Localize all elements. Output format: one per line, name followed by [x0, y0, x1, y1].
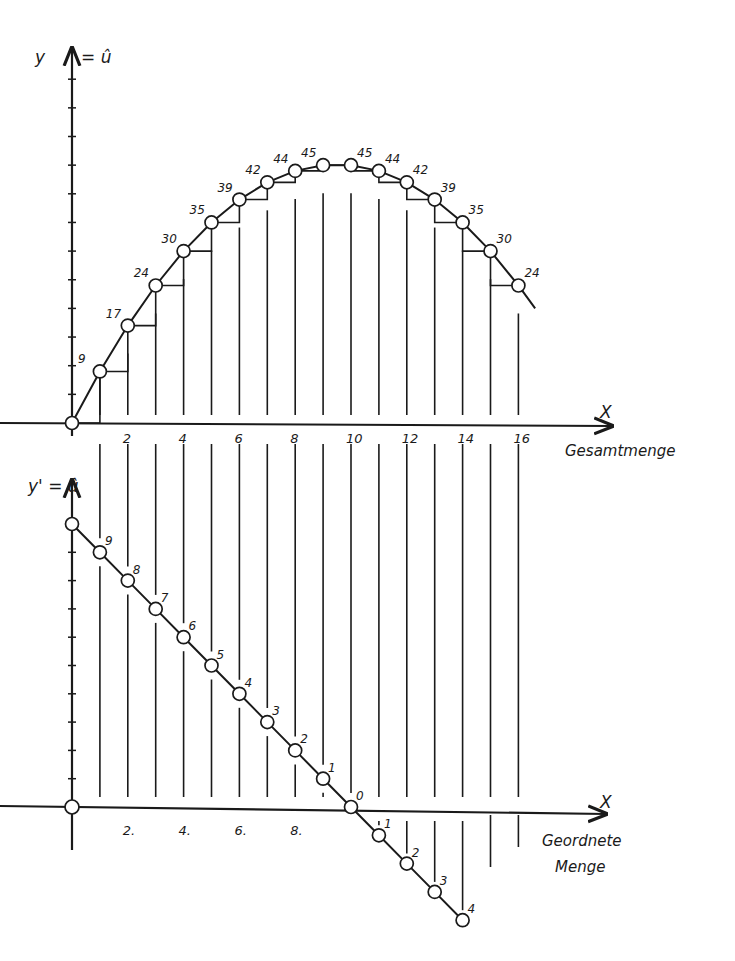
x-tick-label: 2.: [123, 823, 135, 838]
point-value-label: 44: [273, 152, 288, 166]
data-point: [484, 245, 497, 258]
point-value-label: 39: [441, 181, 456, 195]
point-value-label: 44: [385, 152, 400, 166]
point-value-label: 0: [356, 789, 364, 803]
x-tick-label: 6.: [234, 823, 246, 838]
point-value-label: 30: [162, 232, 178, 246]
point-value-label: 42: [413, 163, 428, 177]
marginal-utility-chart: 98765432101234 2.4.6.8. y' = û X Geordne…: [0, 444, 622, 927]
upper-x-axis-label: X: [599, 402, 612, 422]
x-tick-label: 16: [513, 431, 530, 446]
lower-x-axis-label: X: [599, 792, 612, 812]
data-point: [149, 279, 162, 292]
point-value-label: 24: [524, 266, 539, 280]
lower-y-axis-label: y' = û: [27, 476, 79, 496]
upper-x-tick-labels: 246810121416: [123, 431, 530, 446]
data-point: [261, 176, 274, 189]
point-value-label: 4: [244, 676, 252, 690]
x-tick-label: 8: [290, 431, 298, 446]
point-value-label: 7: [161, 591, 169, 605]
point-value-label: 4: [468, 902, 476, 916]
point-value-label: 9: [78, 352, 86, 366]
upper-x-caption: Gesamtmenge: [565, 442, 675, 460]
data-point: [317, 159, 330, 172]
data-point: [205, 216, 218, 229]
point-value-label: 1: [384, 817, 392, 831]
data-point: [93, 365, 106, 378]
data-point: [512, 279, 525, 292]
data-point: [372, 164, 385, 177]
total-utility-curve: [72, 165, 535, 423]
data-point: [66, 518, 79, 531]
total-utility-chart: 9172430353942444545444239353024 24681012…: [0, 47, 675, 460]
lower-x-tick-labels: 2.4.6.8.: [123, 823, 303, 838]
point-value-label: 30: [497, 232, 513, 246]
x-tick-label: 4.: [179, 823, 191, 838]
point-value-label: 17: [106, 307, 122, 321]
point-value-label: 45: [357, 146, 372, 160]
x-tick-label: 6: [234, 431, 242, 446]
data-point: [66, 417, 79, 430]
lower-grid-lines: [100, 444, 519, 910]
x-tick-label: 2: [123, 431, 131, 446]
point-value-label: 3: [440, 874, 448, 888]
upper-data-points: 9172430353942444545444239353024: [66, 146, 540, 429]
x-tick-label: 4: [179, 431, 187, 446]
point-value-label: 2: [412, 846, 420, 860]
point-value-label: 8: [133, 563, 141, 577]
upper-grid-lines: [100, 193, 519, 415]
point-value-label: 5: [217, 648, 225, 662]
data-point: [456, 216, 469, 229]
lower-x-axis: [0, 806, 606, 814]
upper-x-axis: [0, 423, 612, 426]
point-value-label: 39: [217, 181, 232, 195]
lower-data-points: 98765432101234: [65, 518, 475, 927]
point-value-label: 35: [190, 203, 205, 217]
data-point: [428, 193, 441, 206]
utility-chart: 9172430353942444545444239353024 24681012…: [0, 0, 735, 961]
x-tick-label: 14: [458, 431, 475, 446]
origin-point: [65, 800, 79, 814]
lower-x-caption-line2: Menge: [555, 858, 605, 876]
data-point: [345, 159, 358, 172]
point-value-label: 24: [134, 266, 149, 280]
point-value-label: 1: [328, 761, 336, 775]
point-value-label: 35: [469, 203, 484, 217]
upper-y-axis-label: y: [34, 47, 46, 67]
point-value-label: 6: [189, 619, 197, 633]
point-value-label: 2: [300, 732, 308, 746]
x-tick-label: 12: [402, 431, 419, 446]
point-value-label: 45: [301, 146, 316, 160]
x-tick-label: 8.: [290, 823, 302, 838]
point-value-label: 42: [245, 163, 260, 177]
lower-x-caption-line1: Geordnete: [542, 832, 622, 850]
data-point: [121, 319, 134, 332]
point-value-label: 3: [272, 704, 280, 718]
x-tick-label: 10: [346, 431, 363, 446]
data-point: [289, 164, 302, 177]
upper-y-axis-eq: = û: [81, 47, 112, 67]
data-point: [233, 193, 246, 206]
data-point: [400, 176, 413, 189]
data-point: [177, 245, 190, 258]
point-value-label: 9: [105, 534, 113, 548]
